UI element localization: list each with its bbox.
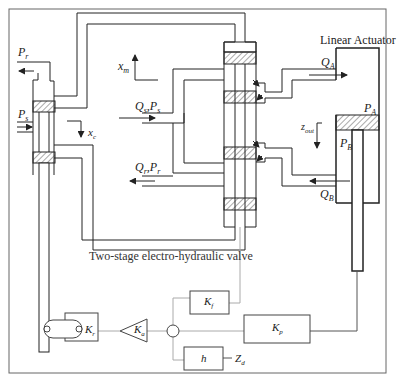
- label-zd: Zd: [235, 352, 245, 367]
- actuator-ports: [256, 69, 336, 186]
- linear-actuator: [336, 48, 379, 271]
- label-ps: Ps: [17, 107, 28, 123]
- xc-arrow: [67, 121, 81, 137]
- label-zout: zout: [300, 121, 315, 135]
- label-qb: QB: [320, 187, 334, 203]
- summing-junction: [167, 325, 179, 337]
- caption-two-stage-valve: Two-stage electro-hydraulic valve: [89, 249, 253, 263]
- label-xm: xm: [117, 59, 129, 75]
- label-pb: PB: [339, 136, 352, 152]
- label-xc: xc: [87, 126, 97, 141]
- electro-hydraulic-servo-diagram: Pr Ps xc xm Qs,Ps Qr,Pr Linear Actuator …: [0, 0, 398, 381]
- pilot-valve: [17, 62, 55, 352]
- label-pa: PA: [363, 101, 376, 117]
- label-h: h: [201, 352, 207, 364]
- xm-arrow: [135, 55, 158, 80]
- label-qa: QA: [321, 55, 335, 71]
- main-valve: [142, 42, 256, 227]
- zout-arrow: [317, 123, 322, 148]
- label-qs-ps: Qs,Ps: [135, 99, 160, 115]
- label-pr: Pr: [17, 45, 29, 61]
- pilot-lines: [54, 13, 245, 250]
- label-linear-actuator: Linear Actuator: [320, 33, 396, 47]
- label-qr-pr: Qr,Pr: [135, 160, 161, 176]
